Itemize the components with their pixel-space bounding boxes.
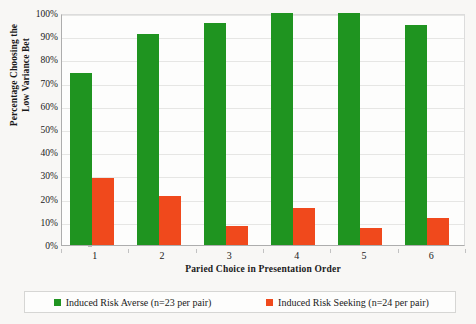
bar-group <box>271 15 323 245</box>
chart-legend: Induced Risk Averse (n=23 per pair)Induc… <box>24 291 456 313</box>
bar <box>405 25 427 245</box>
bar <box>92 178 114 245</box>
legend-swatch-icon <box>266 299 273 306</box>
y-axis-tick-label: 80% <box>28 55 58 65</box>
x-axis-tick-label: 3 <box>203 249 255 265</box>
bar <box>360 228 382 245</box>
bar-group <box>338 15 390 245</box>
x-axis-tick-label: 1 <box>69 249 121 265</box>
x-axis-tick-mark <box>263 249 264 253</box>
bar <box>271 13 293 245</box>
bar-group <box>204 15 256 245</box>
legend-item[interactable]: Induced Risk Seeking (n=24 per pair) <box>240 297 455 308</box>
legend-label: Induced Risk Seeking (n=24 per pair) <box>278 297 429 308</box>
x-axis-tick-label: 5 <box>338 249 390 265</box>
legend-swatch-icon <box>54 299 61 306</box>
bar <box>427 218 449 245</box>
x-axis-tick-label: 6 <box>405 249 457 265</box>
x-axis-tick-mark <box>398 249 399 253</box>
bar-chart-figure: Percentage Choosing the Low Variance Bet… <box>0 0 476 324</box>
x-axis-tick-label: 4 <box>271 249 323 265</box>
bar <box>159 196 181 245</box>
y-axis-tick-label: 60% <box>28 102 58 112</box>
y-axis-tick-label: 50% <box>28 125 58 135</box>
bars-layer <box>62 15 464 245</box>
y-axis-title-line-1: Percentage Choosing the <box>8 24 20 126</box>
x-axis-title: Paried Choice in Presentation Order <box>61 264 465 274</box>
y-axis-tick-label: 90% <box>28 32 58 42</box>
y-axis-tick-label: 40% <box>28 148 58 158</box>
y-axis-tick-label: 30% <box>28 171 58 181</box>
y-axis-tick-mark <box>88 246 92 247</box>
legend-label: Induced Risk Averse (n=23 per pair) <box>66 297 212 308</box>
bar-group <box>70 15 122 245</box>
x-axis-tick-mark <box>465 249 466 253</box>
y-axis-tick-label: 0% <box>28 241 58 251</box>
x-axis-tick-labels: 123456 <box>61 249 465 265</box>
bar <box>70 73 92 245</box>
bar <box>293 208 315 245</box>
y-axis-tick-label: 20% <box>28 195 58 205</box>
x-axis-tick-mark <box>128 249 129 253</box>
y-axis-tick-labels: 100%90%80%70%60%50%40%30%20%10%0% <box>28 14 58 246</box>
bar-group <box>137 15 189 245</box>
bar <box>226 226 248 245</box>
bar <box>137 34 159 245</box>
plot-area <box>61 14 465 246</box>
x-axis-tick-label: 2 <box>136 249 188 265</box>
x-axis-tick-mark <box>196 249 197 253</box>
y-axis-tick-label: 10% <box>28 218 58 228</box>
x-axis-tick-mark <box>61 249 62 253</box>
x-axis-tick-mark <box>330 249 331 253</box>
bar <box>204 23 226 245</box>
y-axis-tick-label: 70% <box>28 79 58 89</box>
legend-item[interactable]: Induced Risk Averse (n=23 per pair) <box>25 297 240 308</box>
bar-group <box>405 15 457 245</box>
bar <box>338 13 360 245</box>
y-axis-tick-label: 100% <box>28 9 58 19</box>
